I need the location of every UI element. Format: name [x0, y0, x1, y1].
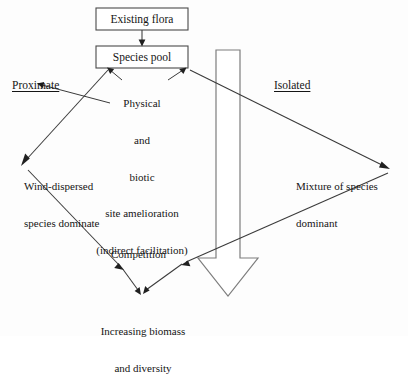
outcome-wind-line1: Wind-dispersed — [24, 180, 99, 192]
pathway-tag-proximate: Proximate — [12, 79, 59, 92]
center-line-and: and — [76, 134, 208, 146]
arrowhead-icon — [135, 287, 141, 295]
outcome-mixture-of-species: Mixture of species dominant — [296, 155, 378, 254]
arrowhead-icon — [143, 286, 150, 294]
outcome-mix-line2: dominant — [296, 217, 378, 229]
outcome-wind-line2: species dominate — [24, 217, 99, 229]
process-competition: Competition — [111, 248, 166, 260]
outcome-wind-dispersed: Wind-dispersed species dominate — [24, 155, 99, 254]
species-pool-label: Species pool — [96, 51, 188, 64]
result-increasing-biomass: Increasing biomass and diversity — [85, 300, 201, 378]
arrowhead-icon — [379, 162, 390, 169]
result-line2: and diversity — [85, 362, 201, 374]
pathway-tag-isolated: Isolated — [274, 79, 310, 92]
result-line1: Increasing biomass — [85, 325, 201, 337]
center-line-physical: Physical — [76, 97, 208, 109]
species-pool-label-wrap: Species pool — [96, 46, 188, 68]
existing-flora-label-wrap: Existing flora — [96, 8, 188, 30]
outcome-mix-line1: Mixture of species — [296, 180, 378, 192]
existing-flora-label: Existing flora — [96, 13, 188, 26]
